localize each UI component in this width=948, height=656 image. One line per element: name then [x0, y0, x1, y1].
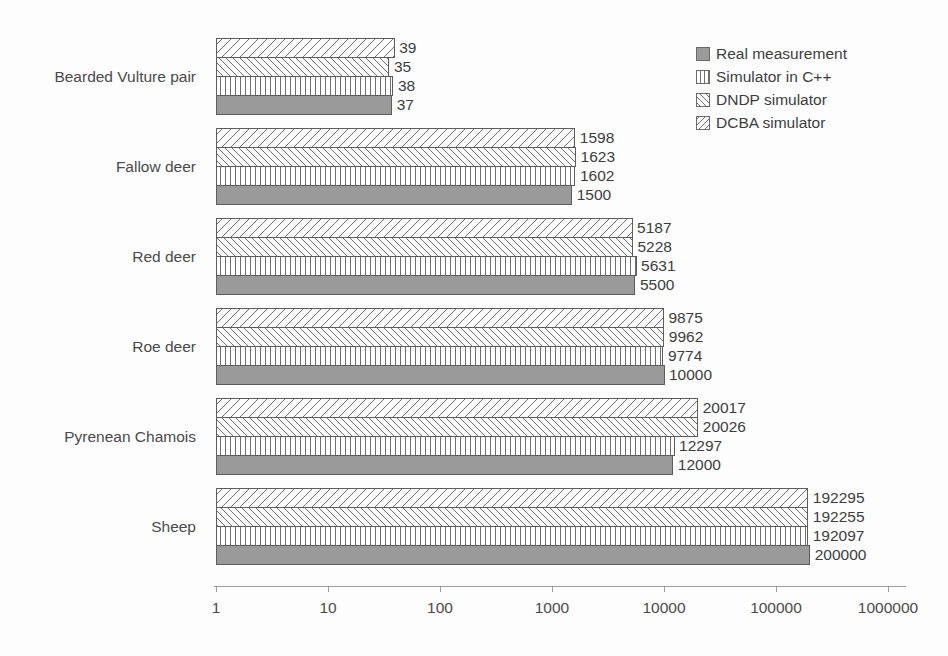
bar-value-label: 20026	[703, 418, 746, 435]
category-label-roe-deer: Roe deer	[132, 338, 196, 355]
x-axis-tick-label: 10000	[642, 599, 685, 616]
bar-simulator-in-c--red-deer	[216, 256, 636, 275]
bar-value-label: 1602	[580, 167, 614, 184]
bar-real-measurement-red-deer	[216, 275, 635, 294]
legend-swatch-solid-gray-swatch	[696, 48, 709, 61]
bar-value-label: 192255	[813, 508, 865, 525]
bar-value-label: 1623	[581, 148, 615, 165]
bar-dcba-simulator-pyrenean-chamois	[216, 398, 698, 417]
bar-value-label: 20017	[703, 399, 746, 416]
legend-label-simulator-in-c-: Simulator in C++	[716, 68, 831, 85]
bar-dndp-simulator-red-deer	[216, 237, 632, 256]
x-axis-tick-label: 100000	[750, 599, 802, 616]
bar-value-label: 38	[398, 77, 415, 94]
bar-simulator-in-c--fallow-deer	[216, 166, 575, 185]
bar-real-measurement-sheep	[216, 545, 810, 564]
category-label-sheep: Sheep	[151, 518, 196, 535]
bar-value-label: 192295	[813, 489, 865, 506]
bar-value-label: 5228	[637, 238, 671, 255]
legend-swatch-vertical-lines-swatch	[696, 71, 709, 84]
bar-value-label: 39	[399, 39, 416, 56]
bar-dcba-simulator-fallow-deer	[216, 128, 575, 147]
bar-value-label: 1598	[580, 129, 614, 146]
bar-dndp-simulator-sheep	[216, 507, 808, 526]
bar-dcba-simulator-red-deer	[216, 218, 632, 237]
bar-real-measurement-bearded-vulture-pair	[216, 95, 392, 114]
x-axis-tick-label: 1000000	[858, 599, 919, 616]
bar-value-label: 5187	[637, 219, 671, 236]
bar-value-label: 9774	[668, 347, 703, 364]
x-axis-tick-label: 1	[212, 599, 221, 616]
bar-value-label: 35	[394, 58, 411, 75]
bar-real-measurement-pyrenean-chamois	[216, 455, 673, 474]
category-labels-layer: Bearded Vulture pairFallow deerRed deerR…	[54, 68, 196, 535]
bar-value-label: 200000	[815, 546, 867, 563]
bar-value-label: 9962	[669, 328, 703, 345]
legend-swatch-backslash-hatch-swatch	[696, 94, 709, 107]
bar-dcba-simulator-roe-deer	[216, 308, 663, 327]
bar-value-label: 9875	[668, 309, 702, 326]
category-label-bearded-vulture-pair: Bearded Vulture pair	[54, 68, 196, 85]
bar-real-measurement-fallow-deer	[216, 185, 572, 204]
bar-value-label: 5631	[641, 257, 675, 274]
bar-value-label: 12297	[679, 437, 722, 454]
bar-simulator-in-c--sheep	[216, 526, 808, 545]
bar-value-label: 5500	[640, 276, 675, 293]
legend-label-dcba-simulator: DCBA simulator	[716, 114, 825, 131]
bar-dndp-simulator-fallow-deer	[216, 147, 576, 166]
bar-dndp-simulator-pyrenean-chamois	[216, 417, 698, 436]
category-label-fallow-deer: Fallow deer	[116, 158, 196, 175]
bar-value-label: 37	[397, 96, 414, 113]
bar-simulator-in-c--roe-deer	[216, 346, 663, 365]
bar-real-measurement-roe-deer	[216, 365, 664, 384]
x-axis-tick-label: 100	[427, 599, 453, 616]
x-axis-tick-label: 10	[319, 599, 337, 616]
bar-value-label: 10000	[669, 366, 712, 383]
category-label-pyrenean-chamois: Pyrenean Chamois	[64, 428, 196, 445]
chart-canvas: 3935383715981623160215005187522856315500…	[0, 0, 948, 656]
category-label-red-deer: Red deer	[132, 248, 196, 265]
bar-dcba-simulator-bearded-vulture-pair	[216, 38, 394, 57]
legend-swatch-forwardslash-hatch-swatch	[696, 117, 709, 130]
x-axis-tick-label: 1000	[535, 599, 570, 616]
legend-label-dndp-simulator: DNDP simulator	[716, 91, 827, 108]
bar-dndp-simulator-roe-deer	[216, 327, 664, 346]
bar-simulator-in-c--bearded-vulture-pair	[216, 76, 393, 95]
chart-legend: Real measurementSimulator in C++DNDP sim…	[696, 45, 848, 131]
log-bar-chart: 3935383715981623160215005187522856315500…	[0, 0, 948, 656]
x-axis: 1101001000100001000001000000	[212, 586, 919, 616]
bar-value-label: 12000	[678, 456, 721, 473]
bar-dcba-simulator-sheep	[216, 488, 808, 507]
bar-value-label: 192097	[813, 527, 865, 544]
legend-label-real-measurement: Real measurement	[716, 45, 848, 62]
bar-value-label: 1500	[577, 186, 612, 203]
bar-dndp-simulator-bearded-vulture-pair	[216, 57, 389, 76]
bar-simulator-in-c--pyrenean-chamois	[216, 436, 674, 455]
